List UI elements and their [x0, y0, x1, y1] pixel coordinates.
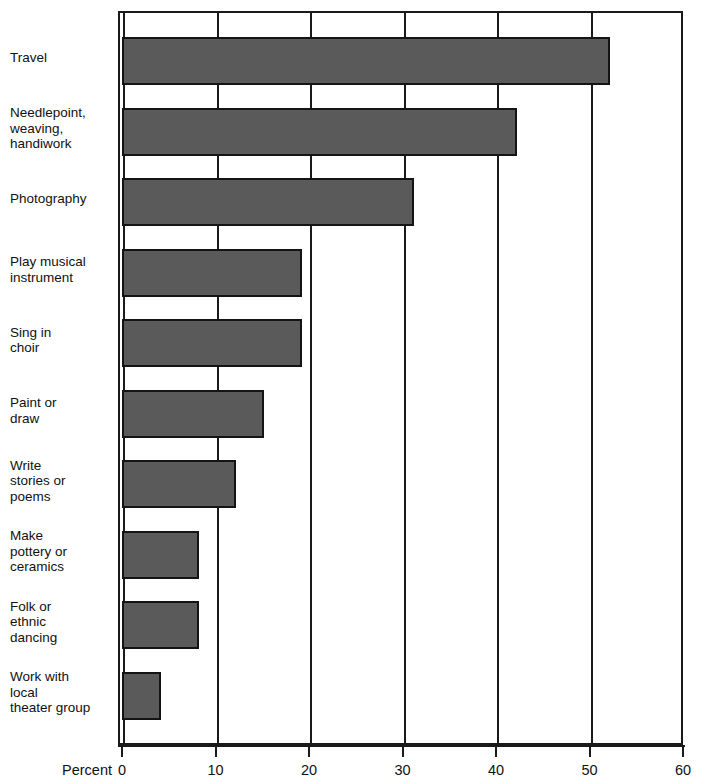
x-tick-label-10: 10 [196, 762, 236, 778]
x-tick-label-60: 60 [663, 762, 701, 778]
bar [122, 460, 236, 508]
category-label: Write stories or poems [10, 458, 116, 505]
category-label: Sing in choir [10, 325, 116, 356]
category-label: Photography [10, 191, 116, 207]
bar [122, 249, 302, 297]
x-tick-60 [682, 745, 684, 757]
category-label: Work with local theater group [10, 669, 116, 716]
x-tick-10 [215, 745, 217, 757]
x-tick-label-40: 40 [476, 762, 516, 778]
bar-row [120, 319, 681, 367]
bar-row [120, 390, 681, 438]
category-label: Make pottery or ceramics [10, 528, 116, 575]
x-tick-label-20: 20 [289, 762, 329, 778]
bar-row [120, 531, 681, 579]
category-label: Play musical instrument [10, 254, 116, 285]
x-tick-40 [495, 745, 497, 757]
bar-row [120, 178, 681, 226]
bar [122, 108, 517, 156]
x-tick-30 [402, 745, 404, 757]
category-label: Folk or ethnic dancing [10, 599, 116, 646]
x-tick-20 [308, 745, 310, 757]
bar-row [120, 672, 681, 720]
bar-row [120, 108, 681, 156]
bar [122, 531, 199, 579]
bar-row [120, 37, 681, 85]
bar [122, 672, 161, 720]
bar [122, 37, 610, 85]
bar [122, 601, 199, 649]
x-tick-0 [121, 745, 123, 757]
bar-row [120, 249, 681, 297]
x-tick-50 [589, 745, 591, 757]
category-label: Travel [10, 50, 116, 66]
bar [122, 390, 264, 438]
bar-row [120, 460, 681, 508]
bar-row [120, 601, 681, 649]
category-label: Paint or draw [10, 395, 116, 426]
bar [122, 178, 414, 226]
category-label: Needlepoint, weaving, handiwork [10, 105, 116, 152]
x-tick-label-50: 50 [570, 762, 610, 778]
x-tick-label-0: 0 [102, 762, 142, 778]
bar-chart: Percent TravelNeedlepoint, weaving, hand… [0, 0, 701, 784]
x-tick-label-30: 30 [383, 762, 423, 778]
bar [122, 319, 302, 367]
plot-area [118, 11, 683, 745]
